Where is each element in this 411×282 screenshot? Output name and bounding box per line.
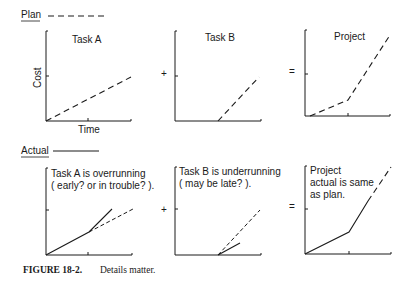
x-axis-label: Time (78, 124, 100, 135)
actual-task-b-chart: Task B is underrunning ( may be late? ). (175, 166, 281, 255)
chart-title: Task A (72, 34, 102, 45)
y-axis-label: Cost (32, 67, 43, 88)
equals-operator: = (289, 201, 295, 212)
figure-caption-label: FIGURE 18-2. (23, 265, 82, 275)
annotation-line2: actual is same (310, 177, 374, 188)
legend-actual-label: Actual (21, 145, 49, 156)
figure-canvas: Plan Task A Cost Time + Task B = Project… (0, 0, 411, 282)
annotation-line2: ( early? or in trouble? ). (51, 180, 154, 191)
plus-operator: + (161, 204, 167, 215)
annotation-line1: Task B is underrunning (179, 166, 281, 177)
plan-line (46, 77, 131, 121)
annotation-line2: ( may be late? ). (179, 178, 251, 189)
actual-line (305, 201, 368, 254)
chart-title: Task B (205, 32, 235, 43)
actual-task-a-chart: Task A is overrunning ( early? or in tro… (46, 168, 154, 255)
actual-project-chart: Project actual is same as plan. (305, 165, 391, 254)
plan-line (218, 210, 260, 255)
legend-plan-label: Plan (21, 9, 41, 20)
figure-caption-text: Details matter. (100, 265, 155, 275)
equals-operator: = (289, 66, 295, 77)
plan-task-a-chart: Task A Cost Time (32, 31, 131, 135)
plan-line (218, 77, 259, 121)
plan-line (310, 35, 390, 116)
annotation-line1: Task A is overrunning (51, 168, 146, 179)
actual-line (46, 209, 112, 255)
plan-project-chart: Project (305, 30, 390, 116)
axes (305, 30, 390, 116)
annotation-line3: as plan. (310, 189, 345, 200)
axes (175, 31, 261, 121)
plus-operator: + (161, 68, 167, 79)
actual-line (218, 243, 240, 255)
annotation-line1: Project (310, 165, 341, 176)
plan-task-b-chart: Task B (175, 31, 261, 121)
chart-title: Project (334, 31, 365, 42)
plan-line (89, 209, 133, 232)
